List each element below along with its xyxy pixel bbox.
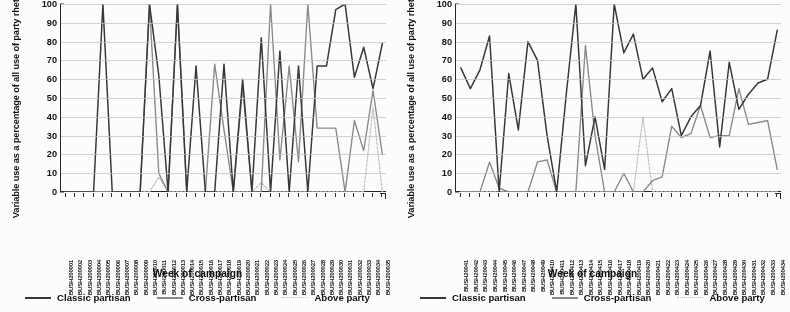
- gridline: [61, 4, 386, 5]
- legend-swatch-above-icon: [677, 297, 703, 298]
- y-tick-label: 20: [47, 149, 57, 159]
- gridline: [456, 136, 781, 137]
- x-tick-mark: [74, 193, 75, 197]
- x-tick-mark: [613, 193, 614, 197]
- x-tick-mark: [738, 193, 739, 197]
- y-axis-title-left: Variable use as a percentage of all use …: [0, 0, 34, 200]
- y-tick-label: 70: [47, 55, 57, 65]
- gridline: [456, 60, 781, 61]
- legend-label-above: Above party: [314, 292, 369, 303]
- x-tick-mark: [195, 193, 196, 197]
- plot-wrapper-right: 0102030405060708090100 BUSH20041BUSH2004…: [429, 4, 784, 200]
- y-tick-label: 40: [442, 112, 452, 122]
- x-tick-mark: [728, 193, 729, 197]
- chart-panel-right: Variable use as a percentage of all use …: [395, 0, 790, 312]
- y-tick-label: 20: [442, 149, 452, 159]
- x-axis-title-left: Week of campaign: [0, 268, 395, 279]
- legend-right: Classic partisanCross-partisanAbove part…: [395, 292, 790, 303]
- y-tick-label: 90: [47, 18, 57, 28]
- x-tick-mark: [344, 193, 345, 197]
- x-tick-mark: [307, 193, 308, 197]
- legend-label-classic: Classic partisan: [452, 292, 526, 303]
- x-tick-mark: [642, 193, 643, 197]
- y-tick-label: 30: [442, 131, 452, 141]
- legend-swatch-cross-icon: [157, 297, 183, 299]
- gridline: [61, 117, 386, 118]
- gridline: [61, 154, 386, 155]
- plot-area-right: [455, 4, 781, 192]
- legend-item-above[interactable]: Above party: [282, 292, 369, 303]
- x-tick-mark: [680, 193, 681, 197]
- x-tick-mark: [232, 193, 233, 197]
- x-tick-mark: [632, 193, 633, 197]
- x-tick-mark: [546, 193, 547, 197]
- x-tick-mark: [176, 193, 177, 197]
- x-tick-mark: [498, 193, 499, 197]
- x-tick-mark: [279, 193, 280, 197]
- x-tick-mark: [575, 193, 576, 197]
- y-tick-label: 100: [42, 0, 57, 9]
- y-tick-label: 60: [47, 74, 57, 84]
- y-tick-label: 50: [442, 93, 452, 103]
- x-tick-mark: [652, 193, 653, 197]
- legend-label-cross: Cross-partisan: [189, 292, 257, 303]
- gridline: [456, 79, 781, 80]
- legend-label-classic: Classic partisan: [57, 292, 131, 303]
- x-tick-mark: [661, 193, 662, 197]
- x-tick-mark: [260, 193, 261, 197]
- gridline: [61, 42, 386, 43]
- axis-corner-right: [775, 193, 781, 199]
- gridline: [61, 136, 386, 137]
- x-tick-mark: [527, 193, 528, 197]
- x-tick-mark: [690, 193, 691, 197]
- gridline: [456, 154, 781, 155]
- x-tick-mark: [139, 193, 140, 197]
- x-tick-mark: [747, 193, 748, 197]
- x-tick-mark: [316, 193, 317, 197]
- x-tick-mark: [489, 193, 490, 197]
- legend-swatch-above-icon: [282, 297, 308, 298]
- x-tick-mark: [517, 193, 518, 197]
- x-tick-mark: [719, 193, 720, 197]
- x-tick-mark: [353, 193, 354, 197]
- x-tick-mark: [363, 193, 364, 197]
- legend-item-classic[interactable]: Classic partisan: [420, 292, 526, 303]
- x-tick-mark: [65, 193, 66, 197]
- x-tick-mark: [556, 193, 557, 197]
- x-tick-mark: [709, 193, 710, 197]
- x-tick-mark: [700, 193, 701, 197]
- y-axis-title-left-text: Variable use as a percentage of all use …: [12, 0, 23, 218]
- legend-swatch-cross-icon: [552, 297, 578, 299]
- x-tick-mark: [242, 193, 243, 197]
- legend-item-cross[interactable]: Cross-partisan: [157, 292, 257, 303]
- y-tick-label: 70: [442, 55, 452, 65]
- y-tick-label: 80: [442, 37, 452, 47]
- legend-item-above[interactable]: Above party: [677, 292, 764, 303]
- gridline: [61, 60, 386, 61]
- figure-root: Variable use as a percentage of all use …: [0, 0, 790, 312]
- y-tick-label: 100: [437, 0, 452, 9]
- x-tick-mark: [214, 193, 215, 197]
- legend-item-classic[interactable]: Classic partisan: [25, 292, 131, 303]
- x-tick-mark: [270, 193, 271, 197]
- legend-label-cross: Cross-partisan: [584, 292, 652, 303]
- x-tick-mark: [130, 193, 131, 197]
- x-tick-mark: [204, 193, 205, 197]
- gridline: [61, 173, 386, 174]
- legend-swatch-classic-icon: [25, 297, 51, 299]
- y-tick-label: 0: [447, 187, 452, 197]
- series-line: [66, 107, 383, 192]
- x-tick-mark: [158, 193, 159, 197]
- x-tick-mark: [223, 193, 224, 197]
- x-tick-mark: [325, 193, 326, 197]
- gridline: [61, 79, 386, 80]
- x-tick-mark: [121, 193, 122, 197]
- legend-item-cross[interactable]: Cross-partisan: [552, 292, 652, 303]
- x-tick-mark: [298, 193, 299, 197]
- x-tick-mark: [102, 193, 103, 197]
- x-tick-mark: [372, 193, 373, 197]
- x-tick-mark: [584, 193, 585, 197]
- gridline: [456, 117, 781, 118]
- y-axis-title-right-text: Variable use as a percentage of all use …: [407, 0, 418, 218]
- gridline: [61, 98, 386, 99]
